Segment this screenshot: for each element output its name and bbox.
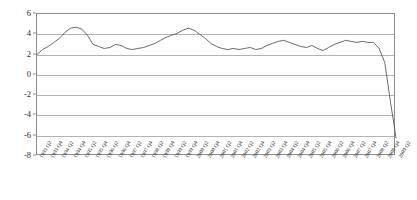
plot-area xyxy=(36,13,395,155)
y-axis-tick-label: -4 xyxy=(24,109,31,119)
y-axis: 6420-2-4-6-8 xyxy=(0,0,36,200)
data-series-line xyxy=(37,14,396,156)
series-path xyxy=(37,27,396,138)
y-axis-tick-label: 2 xyxy=(27,49,31,59)
y-axis-tick-label: -2 xyxy=(24,89,31,99)
line-chart: 6420-2-4-6-8 1993 Q21993 Q41994 Q21994 Q… xyxy=(0,0,417,200)
x-axis: 1993 Q21993 Q41994 Q21994 Q41995 Q21995 … xyxy=(36,156,395,200)
y-axis-tick-label: -8 xyxy=(24,150,31,160)
y-axis-tick-label: 4 xyxy=(27,28,31,38)
y-axis-tick-label: 6 xyxy=(27,8,31,18)
y-axis-tick-label: -6 xyxy=(24,130,31,140)
y-axis-tick-label: 0 xyxy=(27,69,31,79)
